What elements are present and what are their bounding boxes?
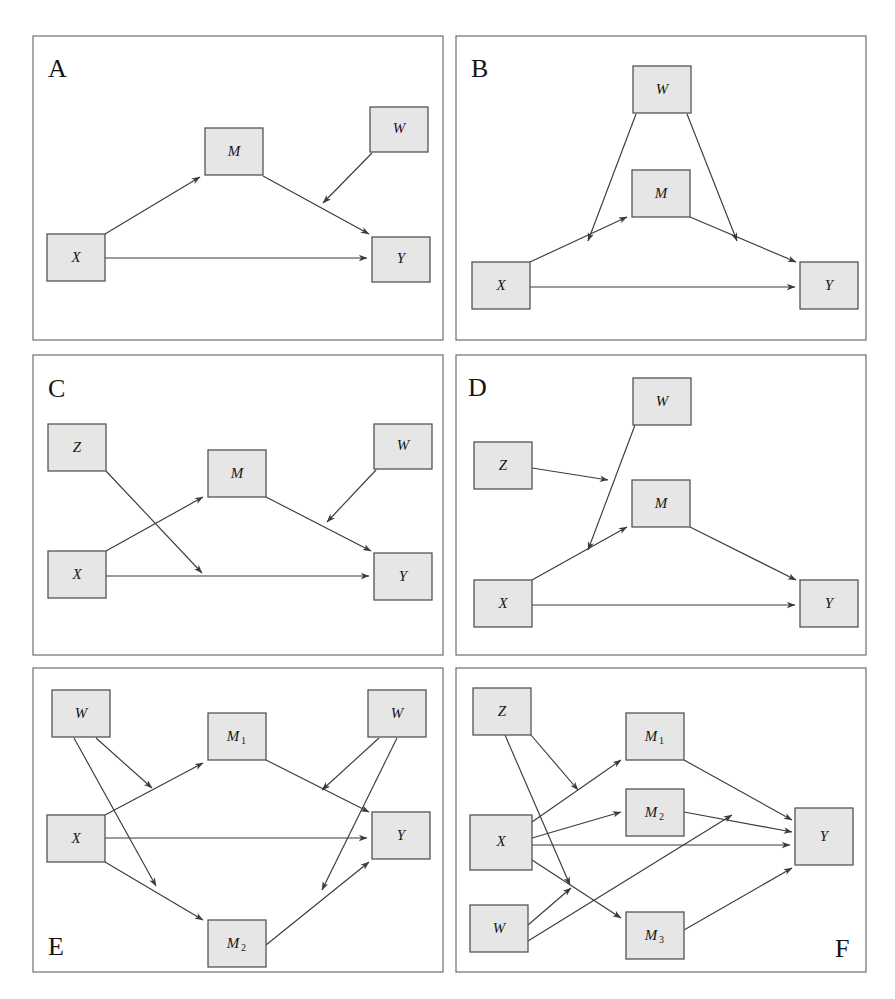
- node-z-label: Z: [73, 439, 82, 455]
- node-w-label: W: [393, 120, 407, 136]
- node-m2-subscript: 2: [659, 811, 664, 822]
- panel-a-letter: A: [48, 54, 67, 83]
- node-z[interactable]: Z: [474, 442, 532, 489]
- node-w-right-label: W: [391, 705, 405, 721]
- node-m3-label: M: [644, 927, 659, 943]
- panel-a: A X M W Y: [33, 36, 443, 340]
- node-m2[interactable]: M 2: [626, 789, 684, 836]
- node-m[interactable]: M: [208, 450, 266, 497]
- node-w[interactable]: W: [374, 424, 432, 469]
- node-y[interactable]: Y: [372, 237, 430, 282]
- node-w-label: W: [656, 81, 670, 97]
- node-m2-label: M: [644, 804, 659, 820]
- node-x[interactable]: X: [48, 551, 106, 598]
- node-x-label: X: [495, 833, 506, 849]
- node-z-label: Z: [498, 703, 507, 719]
- node-m1-label: M: [644, 728, 659, 744]
- node-m[interactable]: M: [205, 128, 263, 175]
- node-y[interactable]: Y: [800, 580, 858, 627]
- node-m3[interactable]: M 3: [626, 912, 684, 959]
- node-m2-subscript: 2: [241, 942, 246, 953]
- node-z[interactable]: Z: [48, 424, 106, 471]
- node-m2-label: M: [226, 935, 241, 951]
- panel-b: B X M W Y: [456, 36, 866, 340]
- node-m-label: M: [654, 495, 669, 511]
- node-m2[interactable]: M 2: [208, 920, 266, 967]
- node-m-label: M: [227, 143, 242, 159]
- node-x[interactable]: X: [474, 580, 532, 627]
- panel-d: D Z X M W Y: [456, 355, 866, 655]
- node-w-left-label: W: [75, 705, 89, 721]
- node-y[interactable]: Y: [372, 812, 430, 859]
- node-x[interactable]: X: [47, 234, 105, 281]
- node-m[interactable]: M: [632, 170, 690, 217]
- node-z-label: Z: [499, 457, 508, 473]
- node-w-label: W: [397, 437, 411, 453]
- panel-c-frame: [33, 355, 443, 655]
- node-m1[interactable]: M 1: [208, 713, 266, 760]
- node-x-label: X: [71, 566, 82, 582]
- node-y[interactable]: Y: [795, 808, 853, 865]
- node-m-label: M: [230, 465, 245, 481]
- node-m1-subscript: 1: [241, 735, 246, 746]
- node-w[interactable]: W: [370, 107, 428, 152]
- node-w[interactable]: W: [633, 378, 691, 425]
- panel-f-letter: F: [835, 934, 849, 963]
- panel-e-letter: E: [48, 932, 64, 961]
- node-x-label: X: [495, 277, 506, 293]
- node-m1-label: M: [226, 728, 241, 744]
- panel-c: C Z X M W Y: [33, 355, 443, 655]
- node-w-label: W: [493, 920, 507, 936]
- node-m-label: M: [654, 185, 669, 201]
- panel-a-frame: [33, 36, 443, 340]
- panel-d-letter: D: [468, 373, 487, 402]
- node-m[interactable]: M: [632, 480, 690, 527]
- node-w-label: W: [656, 393, 670, 409]
- panel-e: E W X M 1 M 2 W: [33, 668, 443, 972]
- figure-canvas: A X M W Y B: [0, 0, 895, 999]
- node-m1[interactable]: M 1: [626, 713, 684, 760]
- node-w-right[interactable]: W: [368, 690, 426, 737]
- node-w[interactable]: W: [470, 905, 528, 952]
- node-m3-subscript: 3: [659, 934, 664, 945]
- node-x-label: X: [70, 830, 81, 846]
- node-y[interactable]: Y: [800, 262, 858, 309]
- node-z[interactable]: Z: [473, 688, 531, 735]
- node-x-label: X: [497, 595, 508, 611]
- node-x[interactable]: X: [472, 262, 530, 309]
- panel-f: F Z X M 1 M 2 M: [456, 668, 866, 972]
- node-w[interactable]: W: [633, 66, 691, 113]
- node-x-label: X: [70, 249, 81, 265]
- panel-b-letter: B: [471, 54, 488, 83]
- node-m1-subscript: 1: [659, 735, 664, 746]
- panel-c-letter: C: [48, 374, 65, 403]
- node-y[interactable]: Y: [374, 553, 432, 600]
- node-w-left[interactable]: W: [52, 690, 110, 737]
- node-x[interactable]: X: [47, 815, 105, 862]
- node-x[interactable]: X: [470, 815, 532, 870]
